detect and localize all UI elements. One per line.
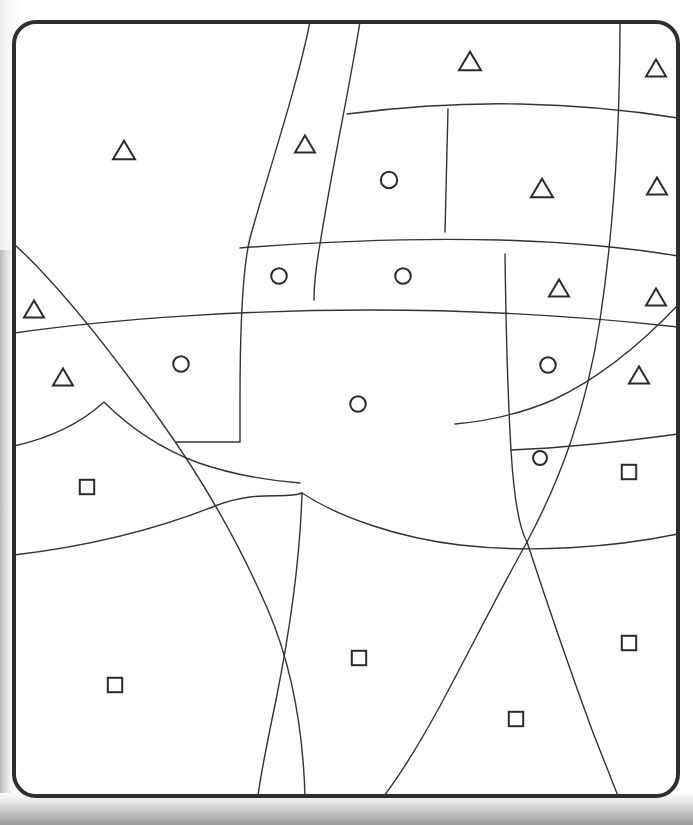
outer-rounded-frame xyxy=(14,22,678,796)
outer-frame-group xyxy=(14,22,678,796)
diagram-page xyxy=(0,0,693,825)
region-diagram xyxy=(0,0,693,825)
